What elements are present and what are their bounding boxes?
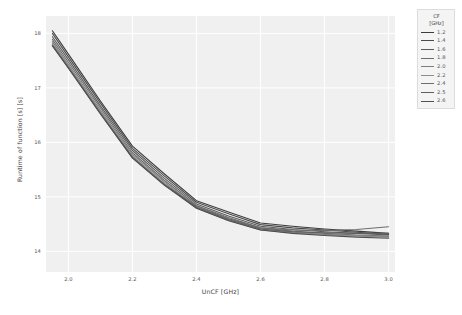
legend-entry: 2.5 <box>421 88 452 97</box>
legend-swatch-icon <box>421 66 434 67</box>
legend-swatch-icon <box>421 32 434 33</box>
y-tick-label: 18 <box>19 30 41 36</box>
legend-swatch-icon <box>421 49 434 50</box>
chart-figure: 2.02.22.42.62.83.0 1415161718 UnCF [GHz]… <box>0 0 462 315</box>
x-tick-label: 2.2 <box>128 276 137 282</box>
plot-area <box>46 16 395 272</box>
x-tick-label: 2.6 <box>256 276 265 282</box>
series-line <box>52 31 388 234</box>
legend-entry-label: 2.2 <box>437 73 446 78</box>
y-axis-title: Runtime of function [s] [s] <box>16 80 23 200</box>
legend-entry: 1.8 <box>421 54 452 63</box>
legend-swatch-icon <box>421 40 434 41</box>
series-lines <box>52 31 388 239</box>
legend-entry: 2.0 <box>421 62 452 71</box>
legend-swatch-icon <box>421 83 434 84</box>
legend-entry-label: 2.4 <box>437 81 446 86</box>
legend-entry: 2.2 <box>421 71 452 80</box>
series-line <box>52 37 388 235</box>
chart-legend: CF [GHz] 1.21.41.61.82.02.22.42.52.6 <box>417 9 455 109</box>
series-line <box>52 42 388 237</box>
legend-swatch-icon <box>421 75 434 76</box>
legend-entry: 2.4 <box>421 80 452 89</box>
series-line <box>52 45 388 231</box>
series-line <box>52 45 388 233</box>
y-tick-label: 14 <box>19 248 41 254</box>
x-tick-label: 2.0 <box>64 276 73 282</box>
legend-entry: 2.6 <box>421 97 452 106</box>
legend-swatch-icon <box>421 58 434 59</box>
legend-entries: 1.21.41.61.82.02.22.42.52.6 <box>421 28 452 105</box>
plot-svg <box>46 16 395 272</box>
legend-swatch-icon <box>421 92 434 93</box>
x-tick-label: 3.0 <box>384 276 393 282</box>
series-line <box>52 39 388 236</box>
legend-entry-label: 1.8 <box>437 55 446 60</box>
x-tick-label: 2.4 <box>192 276 201 282</box>
legend-entry-label: 1.4 <box>437 38 446 43</box>
legend-entry-label: 2.5 <box>437 90 446 95</box>
legend-title-line-2: [GHz] <box>421 20 452 27</box>
legend-entry: 1.6 <box>421 45 452 54</box>
legend-entry-label: 1.2 <box>437 30 446 35</box>
legend-swatch-icon <box>421 101 434 102</box>
legend-entry-label: 2.0 <box>437 64 446 69</box>
legend-entry-label: 2.6 <box>437 98 446 103</box>
x-tick-label: 2.8 <box>320 276 329 282</box>
legend-title: CF [GHz] <box>421 13 452 26</box>
legend-entry-label: 1.6 <box>437 47 446 52</box>
x-axis-title: UnCF [GHz] <box>46 288 395 295</box>
series-line <box>52 33 388 234</box>
series-line <box>52 43 388 237</box>
legend-entry: 1.4 <box>421 37 452 46</box>
legend-entry: 1.2 <box>421 28 452 37</box>
